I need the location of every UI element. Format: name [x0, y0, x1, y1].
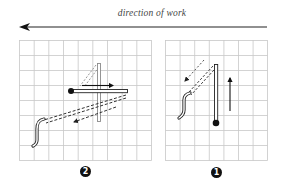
panel-1-drawing	[179, 60, 230, 126]
dashed-stroke-trail	[44, 95, 126, 123]
vertical-tool-with-dot	[213, 65, 220, 127]
panel-2-grid	[20, 40, 152, 161]
ghost-trail-upper	[80, 65, 99, 87]
panel-2-drawing	[33, 64, 128, 147]
panel-1-label: 1	[211, 167, 222, 178]
pivot-dot	[213, 120, 220, 127]
direction-arrow	[19, 23, 267, 31]
dashed-arrow-down-left	[74, 107, 116, 122]
panel-2-label: 2	[80, 166, 91, 177]
diagram-canvas	[0, 0, 284, 186]
pivot-dot	[68, 88, 74, 94]
